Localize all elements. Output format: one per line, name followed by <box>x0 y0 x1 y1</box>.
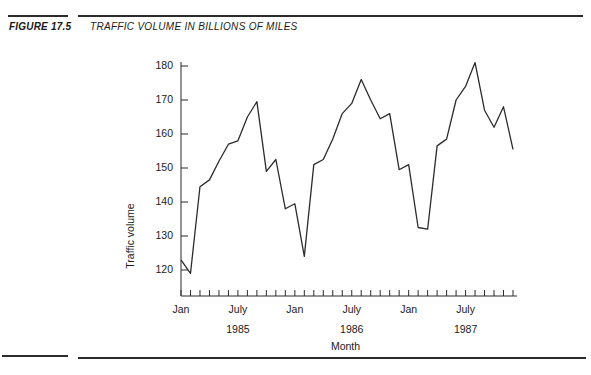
x-axis-tick-label: July <box>329 303 375 315</box>
figure-page: FIGURE 17.5 TRAFFIC VOLUME IN BILLIONS O… <box>0 0 591 375</box>
x-axis-tick-label: Jan <box>386 303 432 315</box>
chart-container: Traffic volume 120130140150160170180JanJ… <box>0 0 591 375</box>
bottom-rule-left <box>2 355 68 357</box>
x-axis-year-label: 1987 <box>443 323 489 335</box>
x-axis-tick-label: Jan <box>272 303 318 315</box>
y-axis-tick-label: 120 <box>143 263 173 275</box>
x-axis-year-label: 1985 <box>215 323 261 335</box>
traffic-volume-line-chart <box>0 0 591 375</box>
x-axis-title-wrapper: Month <box>0 340 591 352</box>
y-axis-title: Traffic volume <box>124 156 136 316</box>
y-axis-tick-label: 170 <box>143 93 173 105</box>
x-axis-tick-label: Jan <box>158 303 204 315</box>
data-line-traffic-volume <box>181 63 513 274</box>
x-axis-tick-label: July <box>443 303 489 315</box>
y-axis-tick-label: 140 <box>143 195 173 207</box>
y-axis-title-wrapper: Traffic volume <box>56 90 216 120</box>
x-axis-title: Month <box>331 340 360 352</box>
y-axis-tick-label: 130 <box>143 229 173 241</box>
x-axis-year-label: 1986 <box>329 323 375 335</box>
y-axis-tick-label: 150 <box>143 161 173 173</box>
bottom-rule-right <box>78 357 586 359</box>
x-axis-tick-label: July <box>215 303 261 315</box>
y-axis-tick-label: 160 <box>143 127 173 139</box>
y-axis-tick-label: 180 <box>143 59 173 71</box>
